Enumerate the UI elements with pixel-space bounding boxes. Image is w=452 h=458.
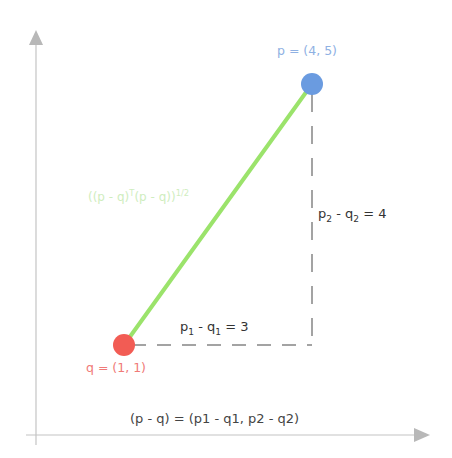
distance-formula-base: ((p - q) — [88, 190, 129, 204]
dy-label: p2 - q2 = 4 — [318, 207, 387, 224]
dx-label: p1 - q1 = 3 — [180, 320, 249, 337]
difference-vector-label: (p - q) = (p1 - q1, p2 - q2) — [130, 412, 299, 425]
point-p — [301, 73, 323, 95]
distance-formula-mid: (p - q)) — [134, 190, 175, 204]
dx-minus: - — [194, 319, 207, 334]
distance-diagram — [0, 0, 452, 458]
point-q — [113, 334, 135, 356]
sqrt-exponent-superscript: 1/2 — [176, 188, 189, 198]
dy-minus: - — [332, 206, 345, 221]
point-p-label: p = (4, 5) — [277, 45, 337, 58]
distance-line — [124, 84, 312, 345]
point-q-label: q = (1, 1) — [86, 362, 146, 375]
dy-value: = 4 — [359, 206, 386, 221]
y-axis-arrowhead-icon — [29, 30, 43, 45]
x-axis-arrowhead-icon — [414, 428, 430, 442]
distance-formula-label: ((p - q)T(p - q))1/2 — [88, 189, 189, 203]
dx-value: = 3 — [221, 319, 248, 334]
